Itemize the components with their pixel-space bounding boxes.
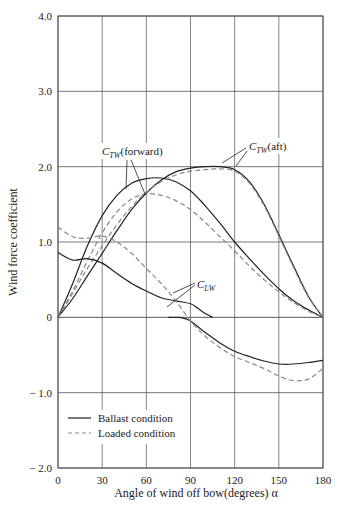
x-tick-label: 150 — [271, 474, 288, 486]
y-tick-label: 4.0 — [38, 10, 52, 22]
wind-force-chart: − 2.0− 1.001.02.03.04.0 0306090120150180… — [0, 0, 338, 517]
y-tick-label: 3.0 — [38, 85, 52, 97]
svg-text:CLW: CLW — [197, 278, 216, 293]
y-tick-label: − 1.0 — [29, 387, 52, 399]
y-tick-labels: − 2.0− 1.001.02.03.04.0 — [29, 10, 52, 474]
y-axis-label: Wind force coefficient — [6, 187, 20, 296]
x-tick-label: 180 — [315, 474, 332, 486]
x-tick-labels: 0306090120150180 — [55, 474, 332, 486]
curve-c-lw-ballast-lower — [168, 317, 323, 364]
x-tick-label: 60 — [141, 474, 153, 486]
y-tick-label: 0 — [47, 311, 53, 323]
y-tick-label: − 2.0 — [29, 462, 52, 474]
y-tick-label: 1.0 — [38, 236, 52, 248]
annotation-clw: CLW — [167, 278, 216, 307]
x-axis-label: Angle of wind off bow(degrees) α — [114, 486, 278, 500]
legend: Ballast condition Loaded condition — [62, 410, 186, 444]
x-tick-label: 30 — [97, 474, 109, 486]
x-tick-label: 90 — [185, 474, 197, 486]
y-tick-label: 2.0 — [38, 161, 52, 173]
legend-loaded-label: Loaded condition — [98, 427, 176, 439]
annotation-ctw-aft: CTW(aft) — [222, 138, 291, 166]
x-tick-label: 120 — [226, 474, 243, 486]
annotation-ctw-forward: CTW(forward) — [100, 143, 168, 194]
x-tick-label: 0 — [55, 474, 61, 486]
legend-ballast-label: Ballast condition — [98, 412, 173, 424]
